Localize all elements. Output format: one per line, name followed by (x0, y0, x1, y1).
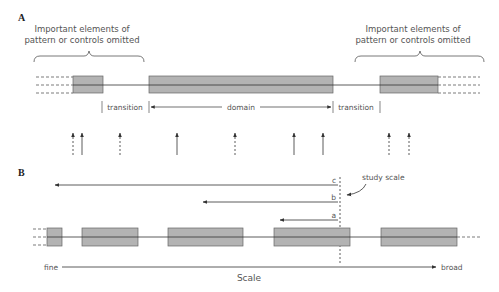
track-b (33, 228, 480, 246)
broad-label: broad (441, 263, 463, 272)
extent-arrows (55, 185, 338, 220)
fine-label: fine (44, 263, 58, 272)
scale-c-label: c (332, 176, 336, 185)
scale-a-label: a (331, 211, 336, 220)
track-a (36, 76, 480, 93)
svg-text:pattern or controls omitted: pattern or controls omitted (355, 35, 470, 45)
sample-arrows (73, 133, 409, 155)
scale-b-label: b (331, 193, 336, 202)
panel-b-label: B (18, 167, 25, 178)
transition-left-label: transition (107, 103, 143, 112)
right-omitted-note: Important elements of pattern or control… (355, 24, 470, 45)
pattern-box-domain (149, 76, 333, 93)
right-brace (355, 51, 484, 62)
svg-text:pattern or controls omitted: pattern or controls omitted (24, 35, 139, 45)
pattern-box-right (380, 76, 438, 93)
domain-label: domain (227, 103, 255, 112)
diagram-canvas: A Important elements of pattern or contr… (0, 0, 499, 292)
svg-text:Important elements of: Important elements of (365, 24, 461, 34)
svg-text:Important elements of: Important elements of (34, 24, 130, 34)
study-scale-pointer (347, 184, 366, 195)
scale-axis-title: Scale (237, 273, 262, 283)
left-omitted-note: Important elements of pattern or control… (24, 24, 139, 45)
transition-right-label: transition (338, 103, 374, 112)
panel-a-label: A (18, 12, 26, 23)
pattern-box-left (73, 76, 103, 93)
study-scale-label: study scale (362, 173, 405, 182)
left-brace (34, 51, 144, 62)
domain-labels: transition domain transition (102, 101, 380, 113)
